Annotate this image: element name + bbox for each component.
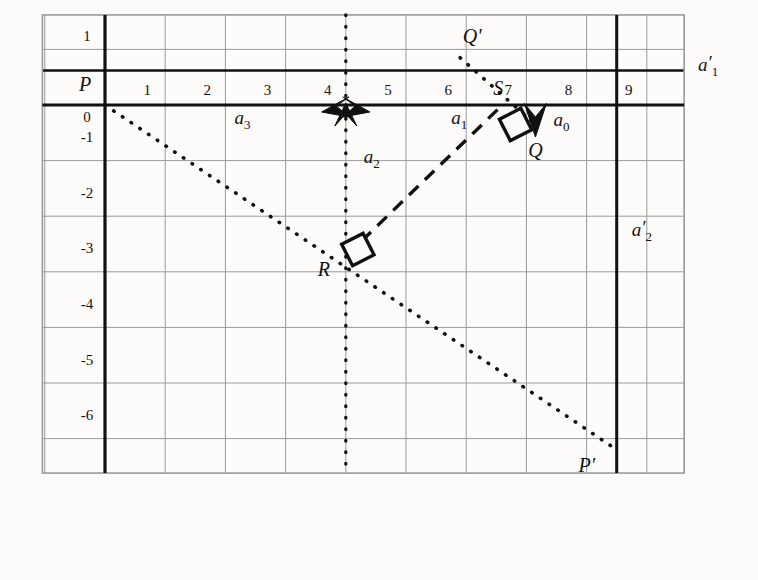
dashed-segment-R-to-S bbox=[346, 105, 503, 256]
right-angle-markers bbox=[336, 103, 537, 271]
x-tick-label-9: 9 bbox=[625, 82, 633, 98]
figure-canvas: 12345678910-1-2-3-4-5-6 a3a1a0a2a′1a′2 P… bbox=[0, 0, 758, 580]
svg-text:a′2: a′2 bbox=[632, 217, 652, 244]
y-tick-label-neg2: -2 bbox=[81, 185, 94, 201]
tick-labels: 12345678910-1-2-3-4-5-6 bbox=[81, 28, 633, 424]
x-tick-label-3: 3 bbox=[264, 82, 272, 98]
y-tick-label-1: 1 bbox=[83, 28, 91, 44]
y-tick-label-neg3: -3 bbox=[81, 240, 94, 256]
svg-text:a2: a2 bbox=[364, 146, 380, 171]
label-a2-prime: a′2 bbox=[632, 217, 652, 244]
y-tick-label-neg5: -5 bbox=[81, 352, 94, 368]
x-tick-label-5: 5 bbox=[384, 82, 392, 98]
point-labels: PSQQ'RP' bbox=[78, 25, 596, 475]
geometry-diagram: 12345678910-1-2-3-4-5-6 a3a1a0a2a′1a′2 P… bbox=[0, 0, 758, 580]
x-tick-label-7: 7 bbox=[505, 82, 513, 98]
x-tick-label-2: 2 bbox=[204, 82, 212, 98]
label-a1: a1 bbox=[451, 107, 467, 132]
point-label-Q: Q bbox=[528, 139, 543, 161]
point-label-Q-prime: Q' bbox=[463, 25, 482, 47]
x-tick-label-1: 1 bbox=[143, 82, 151, 98]
x-tick-label-8: 8 bbox=[565, 82, 573, 98]
svg-text:a3: a3 bbox=[234, 107, 250, 132]
y-tick-label-neg6: -6 bbox=[81, 407, 94, 423]
point-label-P-prime: P' bbox=[577, 454, 595, 476]
right-angle-marker-at-R bbox=[336, 228, 379, 271]
y-tick-label-0: 0 bbox=[83, 109, 91, 125]
x-tick-label-4: 4 bbox=[324, 82, 332, 98]
dashed-segments bbox=[346, 105, 503, 256]
label-a2: a2 bbox=[364, 146, 380, 171]
label-a3: a3 bbox=[234, 107, 250, 132]
svg-text:a0: a0 bbox=[553, 109, 569, 134]
label-a1-prime: a′1 bbox=[698, 52, 718, 79]
point-label-S: S bbox=[493, 77, 503, 99]
x-tick-label-6: 6 bbox=[444, 82, 452, 98]
svg-text:a1: a1 bbox=[451, 107, 467, 132]
label-a0: a0 bbox=[553, 109, 569, 134]
segment-labels: a3a1a0a2a′1a′2 bbox=[234, 52, 718, 244]
point-label-P: P bbox=[78, 73, 91, 95]
y-tick-label-neg1: -1 bbox=[81, 129, 94, 145]
svg-text:a′1: a′1 bbox=[698, 52, 718, 79]
point-label-R: R bbox=[317, 258, 330, 280]
y-tick-label-neg4: -4 bbox=[81, 296, 94, 312]
